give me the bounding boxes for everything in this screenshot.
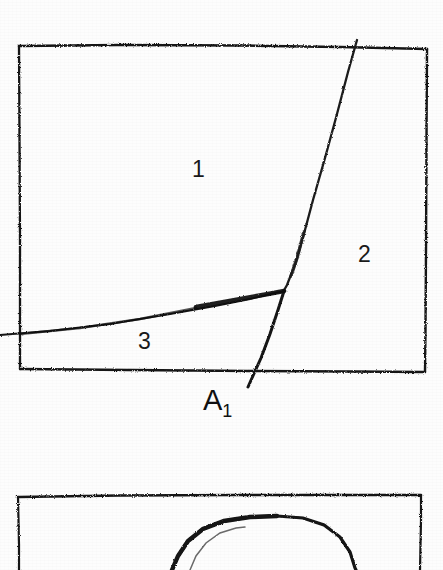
boundary-arc-outer — [172, 516, 356, 570]
junction-label-base: A — [203, 384, 222, 416]
junction-label-subscript: 1 — [222, 401, 232, 421]
frame-bottom-left-edge — [18, 497, 19, 570]
figure-canvas — [0, 0, 443, 570]
region-label-3: 3 — [138, 330, 151, 353]
frame-left-edge — [19, 46, 20, 369]
frame-bottom-edge — [20, 369, 425, 372]
figure-bottom — [18, 495, 421, 570]
figure-top — [0, 40, 427, 387]
figure-sheet: 1 2 3 A1 — [0, 0, 443, 570]
frame-bottom-right-edge — [420, 495, 421, 570]
region-label-1: 1 — [192, 158, 205, 181]
boundary-2-3 — [248, 291, 284, 387]
region-label-2: 2 — [358, 243, 371, 266]
frame-top-edge — [19, 45, 427, 49]
frame-right-edge — [425, 49, 427, 372]
frame-bottom-top-edge — [18, 495, 421, 497]
junction-label-a1: A1 — [203, 386, 232, 420]
boundary-1-2 — [283, 40, 357, 292]
figure-top-frame — [19, 45, 427, 372]
